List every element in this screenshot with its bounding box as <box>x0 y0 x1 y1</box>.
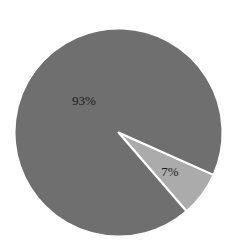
pie-slices <box>14 29 222 237</box>
slice-label-small: 7% <box>161 164 179 179</box>
slice-label-large: 93% <box>72 93 96 108</box>
pie-chart: 93% 7% <box>0 0 237 252</box>
